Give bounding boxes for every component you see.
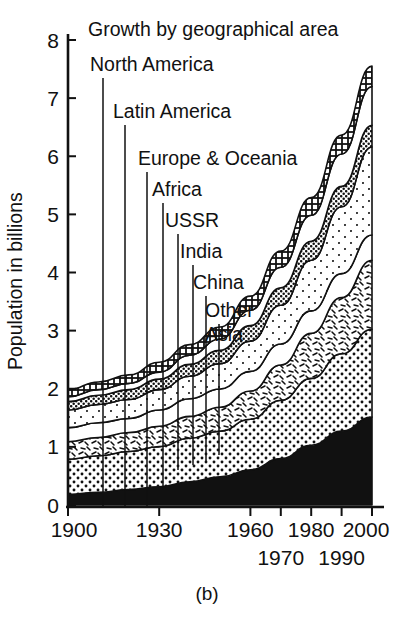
y-tick-label-6: 6 [47, 145, 59, 168]
y-tick-label-8: 8 [47, 29, 59, 52]
x-tick-label-1930: 1930 [136, 518, 183, 541]
chart-title: Growth by geographical area [88, 18, 339, 40]
x-tick-label-1970: 1970 [257, 546, 304, 569]
series-label-europe-oceania: Europe & Oceania [138, 147, 298, 169]
x-tick-label-1960: 1960 [227, 518, 274, 541]
y-tick-label-5: 5 [47, 203, 59, 226]
x-tick-label-2000: 2000 [343, 518, 390, 541]
y-tick-label-1: 1 [47, 435, 59, 458]
x-tick-label-1900: 1900 [51, 518, 98, 541]
y-tick-label-0: 0 [47, 494, 59, 517]
y-tick-label-4: 4 [47, 261, 59, 284]
x-tick-label-1990: 1990 [318, 546, 365, 569]
series-label-india: India [180, 240, 222, 262]
series-label-china: China [193, 271, 244, 293]
x-tick-label-1980: 1980 [288, 518, 335, 541]
series-label-ussr: USSR [165, 209, 219, 231]
y-tick-label-3: 3 [47, 319, 59, 342]
chart-figure: Growth by geographical area0123456781900… [0, 0, 410, 622]
y-axis-title: Population in billions [4, 192, 26, 370]
figure-caption: (b) [195, 583, 218, 604]
series-label-other: Other [205, 299, 254, 321]
series-label-asia: Asia [205, 323, 243, 345]
y-tick-label-7: 7 [47, 87, 59, 110]
y-tick-label-2: 2 [47, 377, 59, 400]
series-label-africa: Africa [152, 178, 202, 200]
series-label-latin-america: Latin America [113, 100, 231, 122]
population-stacked-area-chart: Growth by geographical area0123456781900… [0, 0, 410, 622]
series-label-north-america: North America [90, 53, 214, 75]
